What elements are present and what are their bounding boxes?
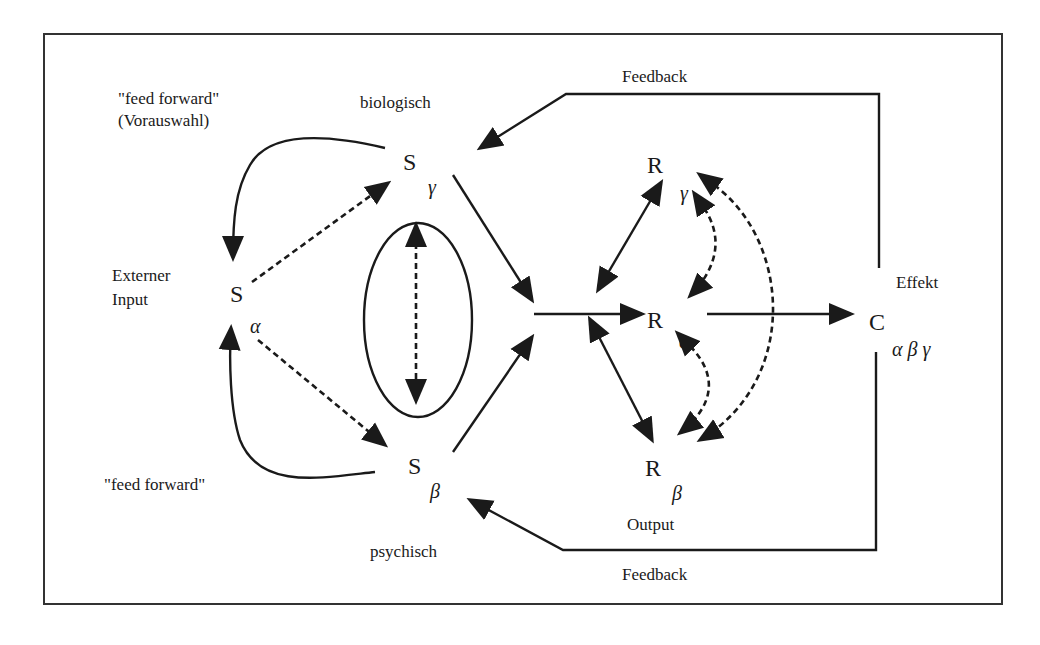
svg-text:S: S (408, 453, 421, 479)
svg-text:S: S (403, 149, 416, 175)
svg-text:β: β (671, 482, 682, 505)
svg-text:γ: γ (428, 176, 437, 199)
arrow-feed-forward-bottom (230, 328, 375, 478)
node-r-gamma: R γ (647, 152, 689, 205)
node-s-gamma: S γ (403, 149, 437, 199)
svg-text:R: R (647, 307, 663, 333)
arrow-r-gamma-r-alpha (598, 198, 652, 290)
arrow-s-gamma-to-junction (453, 175, 532, 300)
svg-text:β: β (429, 480, 440, 503)
svg-text:γ: γ (680, 182, 689, 205)
node-r-beta: R β (645, 455, 682, 505)
arrow-dashed-r-alpha-r-beta (680, 346, 709, 433)
node-r-alpha: R α (647, 307, 690, 352)
label-feedback-bottom: Feedback (622, 565, 688, 584)
svg-text:α: α (679, 330, 690, 352)
node-s-alpha: S α (230, 281, 261, 337)
svg-text:α: α (250, 315, 261, 337)
svg-text:S: S (230, 281, 243, 307)
svg-text:α β γ: α β γ (892, 338, 931, 361)
arrow-dashed-r-gamma-r-beta (700, 185, 773, 440)
label-psychisch: psychisch (370, 542, 438, 561)
label-effekt: Effekt (896, 273, 938, 292)
label-feed-forward-bottom: "feed forward" (104, 475, 205, 494)
arrow-r-alpha-r-beta (598, 335, 652, 440)
arrow-dashed-r-gamma-r-alpha (690, 208, 716, 296)
arrow-s-beta-to-junction (453, 337, 532, 452)
label-biologisch: biologisch (360, 93, 431, 112)
arrow-s-alpha-to-s-gamma (252, 183, 388, 282)
label-vorauswahl: (Vorauswahl) (118, 111, 209, 130)
svg-text:C: C (869, 309, 885, 335)
node-c: C α β γ (869, 309, 931, 361)
label-feed-forward-top: "feed forward" (118, 89, 219, 108)
label-externer: Externer (112, 266, 171, 285)
arrow-s-alpha-to-s-beta (258, 340, 385, 445)
label-output: Output (627, 515, 675, 534)
ellipse-s-gamma-s-beta (364, 223, 472, 417)
svg-text:R: R (645, 455, 661, 481)
arrow-feedback-top (480, 94, 879, 268)
svg-text:R: R (647, 152, 663, 178)
label-input: Input (112, 290, 148, 309)
stimulus-response-diagram: "feed forward" (Vorauswahl) biologisch E… (0, 0, 1040, 645)
label-feedback-top: Feedback (622, 67, 688, 86)
node-s-beta: S β (408, 453, 440, 503)
